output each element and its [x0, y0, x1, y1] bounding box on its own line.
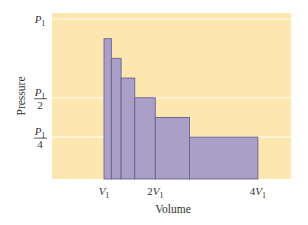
bar — [104, 39, 111, 179]
y-tick-label: P12 — [34, 86, 47, 111]
pressure-volume-chart: P1P12P14 V12V14V1 Pressure Volume — [0, 0, 308, 225]
bar — [111, 58, 121, 179]
y-axis-title: Pressure — [15, 77, 27, 116]
x-tick-label: 2V1 — [147, 185, 163, 200]
x-tick-label: V1 — [99, 185, 110, 200]
bar — [121, 78, 135, 179]
bar — [135, 98, 156, 179]
svg-text:P1: P1 — [34, 13, 46, 28]
y-axis-ticks: P1P12P14 — [34, 13, 47, 150]
bar — [155, 117, 189, 179]
bar — [190, 137, 258, 179]
y-tick-label: P1 — [34, 13, 46, 28]
svg-text:4: 4 — [37, 138, 43, 150]
x-tick-label: 4V1 — [250, 185, 266, 200]
x-axis-title: Volume — [155, 203, 191, 215]
x-axis-ticks: V12V14V1 — [99, 185, 266, 200]
svg-text:2: 2 — [37, 99, 43, 111]
y-tick-label: P14 — [34, 125, 47, 150]
